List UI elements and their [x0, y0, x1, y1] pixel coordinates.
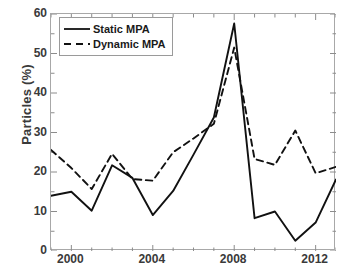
legend-label-dynamic: Dynamic MPA — [93, 38, 166, 50]
series-line-1 — [51, 23, 336, 240]
x-tick-2000: 2000 — [40, 252, 100, 266]
data-series-layer — [51, 23, 336, 240]
series-line-2 — [51, 48, 336, 189]
y-tick-20: 20 — [3, 164, 47, 178]
x-tick-2012: 2012 — [285, 252, 343, 266]
legend-sample-solid-line-icon — [64, 23, 90, 35]
chart-figure: Particles (%) 0102030405060 200020042008… — [0, 0, 343, 270]
y-tick-40: 40 — [3, 85, 47, 99]
y-tick-10: 10 — [3, 204, 47, 218]
legend: Static MPA Dynamic MPA — [59, 17, 173, 56]
legend-sample-dashed-line-icon — [64, 38, 90, 50]
x-tick-2004: 2004 — [122, 252, 182, 266]
y-tick-50: 50 — [3, 46, 47, 60]
y-tick-30: 30 — [3, 125, 47, 139]
legend-item-dynamic: Dynamic MPA — [64, 36, 166, 51]
legend-item-static: Static MPA — [64, 21, 166, 36]
x-tick-2008: 2008 — [203, 252, 263, 266]
y-tick-60: 60 — [3, 6, 47, 20]
legend-label-static: Static MPA — [93, 23, 150, 35]
